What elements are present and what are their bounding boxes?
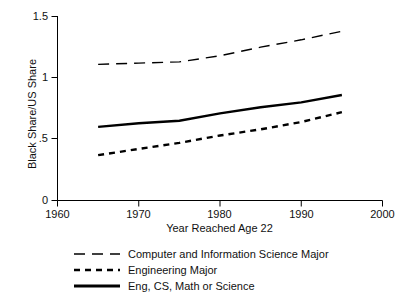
y-tick-label-0: 0 [26,195,48,206]
legend-item-eng-cs-math-or-science: Eng, CS, Math or Science [74,278,404,294]
x-tick-label-1980: 1980 [195,209,244,220]
chart-legend: Computer and Information Science Major E… [74,246,404,294]
legend-item-engineering-major: Engineering Major [74,262,404,278]
x-tick-label-1970: 1970 [114,209,163,220]
legend-label-engineering-major: Engineering Major [128,265,217,276]
x-axis-title: Year Reached Age 22 [57,222,382,234]
legend-label-eng-cs-math-or-science: Eng, CS, Math or Science [128,281,255,292]
x-tick-label-1960: 1960 [33,209,82,220]
legend-swatch-solid-icon [74,280,120,292]
x-tick-label-1990: 1990 [277,209,326,220]
y-axis-ticks [52,17,58,201]
legend-swatch-long-dash-icon [74,248,120,260]
legend-item-computer-and-information-science-major: Computer and Information Science Major [74,246,404,262]
y-tick-label-1-5: 1.5 [26,11,48,22]
series-line-computer-and-information-science-major [98,31,342,64]
x-axis-ticks [58,201,383,207]
legend-label-computer-and-information-science-major: Computer and Information Science Major [128,249,329,260]
x-tick-label-2000: 2000 [358,209,407,220]
legend-swatch-short-dash-icon [74,264,120,276]
chart-figure: 1.5 1 .5 0 1960 1970 1980 1990 2000 Blac… [0,0,416,300]
series-line-engineering-major [98,112,342,155]
y-axis-title: Black Share/US Share [26,34,38,194]
